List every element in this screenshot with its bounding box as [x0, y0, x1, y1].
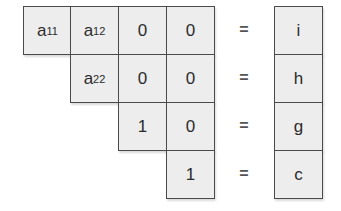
cell-value: 0: [186, 69, 195, 89]
matrix-cell-r1-c1: a22: [70, 54, 119, 103]
matrix-cell-r1-c2: 0: [118, 54, 167, 103]
matrix-cell-r2-c2: 1: [118, 102, 167, 151]
matrix-cell-r1-c3: 0: [166, 54, 215, 103]
equals-sign: =: [234, 68, 254, 88]
matrix-cell-r0-c0: a11: [23, 6, 72, 55]
matrix-cell-r0-c3: 0: [166, 6, 215, 55]
vector-cell-1: h: [274, 54, 323, 103]
vector-cell-2: g: [274, 102, 323, 151]
vector-cell-3: c: [274, 150, 323, 199]
cell-value: 1: [186, 165, 195, 185]
cell-value: 1: [138, 117, 147, 137]
matrix-cell-r2-c3: 0: [166, 102, 215, 151]
equals-sign: =: [234, 116, 254, 136]
equals-sign: =: [234, 164, 254, 184]
cell-base: a: [84, 69, 93, 89]
cell-subscript: 12: [93, 25, 105, 37]
equals-sign: =: [234, 20, 254, 40]
cell-subscript: 22: [93, 73, 105, 85]
cell-value: 0: [186, 21, 195, 41]
cell-value: 0: [138, 69, 147, 89]
matrix-cell-r0-c2: 0: [118, 6, 167, 55]
cell-base: a: [84, 21, 93, 41]
cell-subscript: 11: [47, 25, 58, 37]
cell-value: 0: [138, 21, 147, 41]
cell-value: 0: [186, 117, 195, 137]
vector-cell-0: i: [274, 6, 323, 55]
matrix-cell-r0-c1: a12: [70, 6, 119, 55]
matrix-cell-r3-c3: 1: [166, 150, 215, 199]
cell-base: a: [37, 21, 46, 41]
